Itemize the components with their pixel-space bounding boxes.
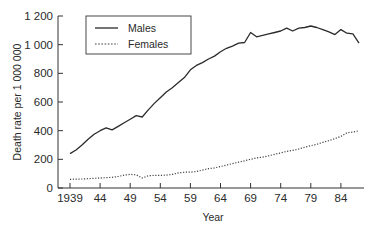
x-tick-label: 84 [335, 192, 348, 204]
x-axis-ticks: 1939444954596469747984 [57, 183, 348, 204]
x-tick-label: 79 [304, 192, 317, 204]
y-tick-label: 200 [34, 153, 53, 165]
y-tick-label: 600 [34, 96, 53, 108]
x-tick-label: 64 [214, 192, 227, 204]
x-tick-label: 44 [94, 192, 107, 204]
y-tick-label: 0 [47, 182, 53, 194]
x-tick-label: 69 [244, 192, 257, 204]
x-tick-label: 74 [274, 192, 287, 204]
x-tick-label: 1939 [57, 192, 83, 204]
y-tick-label: 800 [34, 67, 53, 79]
x-tick-label: 49 [124, 192, 137, 204]
females-line [70, 131, 359, 180]
x-tick-label: 59 [184, 192, 197, 204]
y-tick-label: 1 200 [24, 10, 53, 22]
x-tick-label: 54 [154, 192, 167, 204]
death-rate-line-chart: 02004006008001 0001 200 1939444954596469… [0, 0, 381, 235]
x-axis-title: Year [202, 211, 224, 223]
legend-females-label: Females [128, 38, 168, 50]
legend-males-label: Males [128, 22, 156, 34]
y-axis-title: Death rate per 1 000 000 [11, 43, 23, 160]
legend: Males Females [86, 16, 191, 54]
y-axis-ticks: 02004006008001 0001 200 [24, 10, 63, 194]
y-tick-label: 1 000 [24, 39, 53, 51]
y-tick-label: 400 [34, 125, 53, 137]
